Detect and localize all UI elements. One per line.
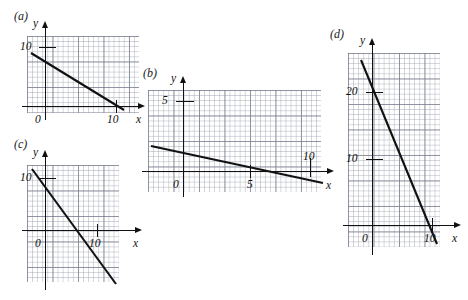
panel-b-origin-label: 0: [173, 179, 179, 191]
figure-canvas: (a) 10 0 10 x y (b): [0, 0, 468, 300]
panel-a: (a) 10 0 10 x y: [0, 0, 152, 130]
panel-a-line: [0, 0, 152, 130]
panel-a-xtick-label: 10: [107, 114, 119, 126]
panel-c-x-axis-label: x: [133, 238, 138, 250]
panel-a-y-axis-label: y: [33, 18, 38, 30]
panel-c-ytick-label: 10: [20, 172, 32, 184]
panel-b-xtick-label-10: 10: [303, 151, 315, 163]
panel-c-origin-label: 0: [35, 238, 41, 250]
panel-c-y-axis-label: y: [33, 147, 38, 159]
panel-d: (d) 20 10 0 10 x y: [325, 22, 468, 282]
panel-c-line: [0, 132, 155, 292]
panel-d-origin-label: 0: [362, 233, 368, 245]
panel-b-ytick-label: 5: [162, 95, 168, 107]
panel-c-xtick-label: 10: [89, 238, 101, 250]
panel-b-xtick-label-5: 5: [247, 179, 253, 191]
panel-b-y-axis-label: y: [171, 73, 176, 85]
panel-b-line: [140, 62, 340, 197]
panel-d-x-axis-label: x: [452, 233, 457, 245]
panel-d-ytick-label-10: 10: [346, 153, 358, 165]
panel-a-ytick-label: 10: [20, 41, 32, 53]
panel-b: (b) 5 0 5 10 x y: [140, 62, 340, 197]
panel-c: (c) 10 0 10 x y: [0, 132, 155, 292]
panel-d-ytick-label-20: 20: [346, 86, 358, 98]
panel-d-xtick-label: 10: [424, 233, 436, 245]
panel-a-origin-label: 0: [35, 114, 41, 126]
panel-d-y-axis-label: y: [360, 35, 365, 47]
